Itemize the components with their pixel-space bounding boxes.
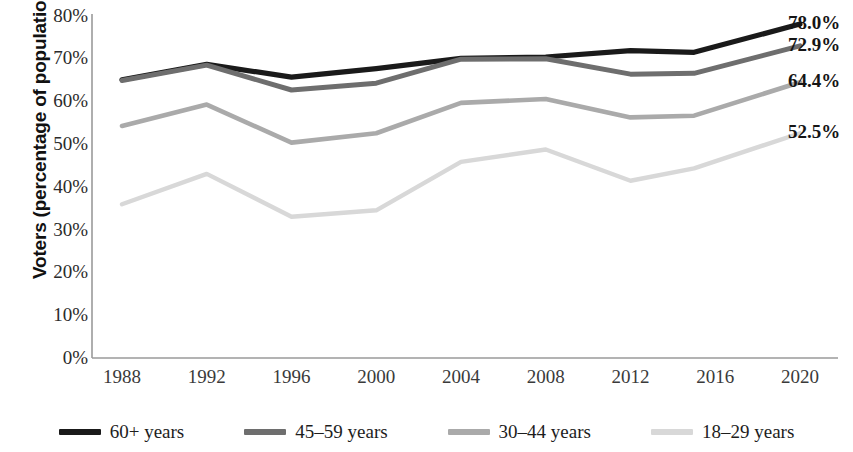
data-series-layer: [122, 24, 800, 217]
legend-label: 45–59 years: [295, 421, 387, 443]
legend-swatch-icon: [448, 429, 490, 435]
end-value-label: 64.4%: [788, 70, 840, 92]
plot-area: [0, 0, 853, 452]
legend-item[interactable]: 45–59 years: [244, 421, 387, 443]
legend-swatch-icon: [651, 429, 693, 435]
end-value-label: 72.9%: [788, 34, 840, 56]
legend-label: 30–44 years: [499, 421, 591, 443]
data-line-30-44-years: [122, 82, 800, 142]
data-line-18-29-years: [122, 133, 800, 216]
legend-item[interactable]: 18–29 years: [651, 421, 794, 443]
legend-label: 18–29 years: [702, 421, 794, 443]
chart-legend: 60+ years45–59 years30–44 years18–29 yea…: [0, 421, 853, 443]
line-chart: Voters (percentage of population) 80%70%…: [0, 0, 853, 452]
legend-item[interactable]: 30–44 years: [448, 421, 591, 443]
legend-swatch-icon: [244, 429, 286, 435]
end-value-label: 78.0%: [788, 12, 840, 34]
legend-swatch-icon: [59, 429, 101, 435]
legend-item[interactable]: 60+ years: [59, 421, 185, 443]
legend-label: 60+ years: [110, 421, 185, 443]
end-value-label: 52.5%: [788, 121, 840, 143]
